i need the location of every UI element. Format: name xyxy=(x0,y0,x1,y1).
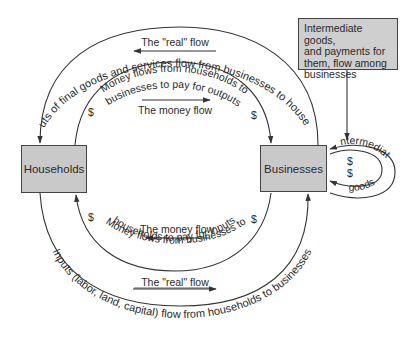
real-flow-bottom-label: The "real" flow xyxy=(141,276,209,288)
intermediate-note-box: Intermediate goods, and payments for the… xyxy=(298,18,398,70)
businesses-box: Businesses xyxy=(260,145,327,192)
intermediate-note-line2: and payments for xyxy=(304,46,392,58)
money-flow-bottom-label: The money flow xyxy=(140,223,215,235)
dollar-inner-top-left: $ xyxy=(88,106,94,118)
dollar-intermediate-1: $ xyxy=(347,155,353,167)
households-label: Households xyxy=(24,163,85,175)
intermediate-note-line1: Intermediate goods, xyxy=(304,23,392,46)
dollar-inner-top-right: $ xyxy=(251,109,257,121)
dollar-inner-bottom-right: $ xyxy=(251,213,257,225)
dollar-inner-bottom-left: $ xyxy=(88,211,94,223)
real-flow-top-label: The "real" flow xyxy=(141,36,209,48)
money-flow-top-label: The money flow xyxy=(138,104,213,116)
intermediate-note-line4: businesses xyxy=(304,69,392,81)
businesses-label: Businesses xyxy=(264,163,323,175)
dollar-intermediate-2: $ xyxy=(347,167,353,179)
households-box: Households xyxy=(21,145,87,193)
